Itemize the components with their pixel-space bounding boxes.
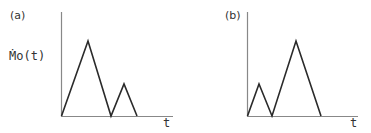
moment-rate-diagram: (a) Ṁo(t) t (b) t — [0, 0, 371, 133]
panel-b-xlabel: t — [350, 116, 357, 130]
panel-a-label: (a) — [10, 9, 25, 22]
panel-a-ylabel: Ṁo(t) — [9, 48, 45, 63]
panel-b: (b) t — [225, 9, 358, 130]
panel-a-curve — [62, 41, 138, 116]
panel-b-curve — [248, 41, 322, 116]
panel-b-label: (b) — [225, 9, 241, 22]
panel-a-xlabel: t — [163, 116, 170, 130]
panel-a: (a) Ṁo(t) t — [9, 9, 173, 130]
